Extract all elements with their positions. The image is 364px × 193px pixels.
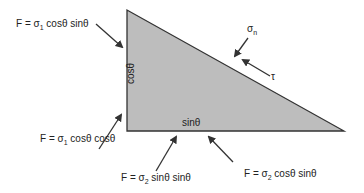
side-label-vertical: cosθ <box>125 63 136 84</box>
arrow-sigma-n <box>235 38 248 56</box>
force-label-prefix: F = σ <box>40 133 64 144</box>
arrow-tau <box>243 60 270 76</box>
arrow-top-left <box>96 24 122 47</box>
tau-label: τ <box>271 71 275 82</box>
force-label-suffix: sinθ sinθ <box>149 172 191 183</box>
force-label-prefix: F = σ <box>16 18 40 29</box>
arrow-bottom-right <box>209 137 233 162</box>
force-label-suffix: cosθ cosθ <box>68 133 116 144</box>
force-label-bottom-middle: F = σ2 sinθ sinθ <box>121 172 191 185</box>
force-label-suffix: cosθ sinθ <box>44 18 89 29</box>
arrow-bottom-middle <box>156 137 176 171</box>
force-label-bottom-left: F = σ1 cosθ cosθ <box>40 133 115 146</box>
force-label-prefix: F = σ <box>244 168 268 179</box>
force-label-bottom-right: F = σ2 cosθ sinθ <box>244 168 317 181</box>
stress-triangle <box>127 10 344 131</box>
force-label-prefix: F = σ <box>121 172 145 183</box>
force-label-suffix: cosθ sinθ <box>272 168 317 179</box>
force-label-top-left: F = σ1 cosθ sinθ <box>16 18 89 31</box>
side-label-horizontal: sinθ <box>182 117 200 128</box>
sigma-subscript: n <box>253 29 257 36</box>
sigma-n-label: σn <box>247 23 257 36</box>
